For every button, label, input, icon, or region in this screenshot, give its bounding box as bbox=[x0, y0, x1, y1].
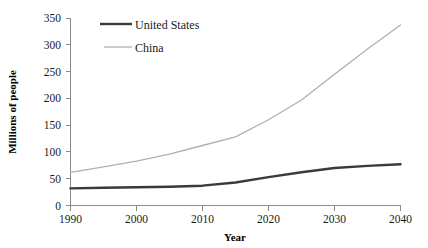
x-axis-title: Year bbox=[224, 231, 246, 243]
y-axis-ticks bbox=[66, 18, 71, 206]
x-tick-label: 2000 bbox=[125, 213, 148, 225]
x-tick-label: 2010 bbox=[191, 213, 214, 225]
data-series-group bbox=[71, 25, 401, 188]
legend-label: China bbox=[135, 41, 164, 55]
y-tick-label: 0 bbox=[55, 200, 61, 212]
x-tick-label: 2040 bbox=[389, 213, 412, 225]
y-tick-label: 50 bbox=[50, 173, 62, 185]
y-axis-title: Millions of people bbox=[6, 70, 18, 154]
x-tick-label: 2020 bbox=[257, 213, 280, 225]
y-tick-label: 350 bbox=[44, 12, 62, 24]
series-line bbox=[71, 164, 401, 188]
legend-label: United States bbox=[135, 18, 200, 32]
x-axis: 199020002010202020302040 bbox=[59, 206, 412, 226]
y-tick-label: 150 bbox=[44, 119, 62, 131]
y-tick-label: 200 bbox=[44, 92, 62, 104]
y-axis-tick-labels: 050100150200250300350 bbox=[44, 12, 62, 212]
x-axis-ticks bbox=[71, 206, 401, 211]
line-chart: 050100150200250300350 199020002010202020… bbox=[0, 0, 428, 248]
chart-canvas: 050100150200250300350 199020002010202020… bbox=[0, 0, 428, 248]
chart-legend: United StatesChina bbox=[100, 18, 200, 55]
x-tick-label: 1990 bbox=[59, 213, 82, 225]
x-axis-tick-labels: 199020002010202020302040 bbox=[59, 213, 412, 225]
y-tick-label: 300 bbox=[44, 39, 62, 51]
y-tick-label: 250 bbox=[44, 66, 62, 78]
x-tick-label: 2030 bbox=[323, 213, 346, 225]
y-tick-label: 100 bbox=[44, 146, 62, 158]
y-axis: 050100150200250300350 bbox=[44, 12, 71, 212]
